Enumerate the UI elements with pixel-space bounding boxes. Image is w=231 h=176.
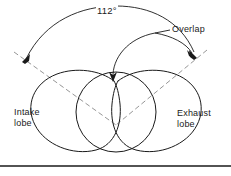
- exhaust-lobe-label: Exhaust lobe: [177, 108, 211, 130]
- overlap-leader-curve: [113, 33, 155, 78]
- overlap-leader-curve-right: [155, 33, 192, 53]
- angle-label: 112°: [96, 5, 118, 16]
- overlap-leader-line: [155, 30, 170, 33]
- intake-lobe-label: Intake lobe: [14, 107, 40, 129]
- cam-lobe-diagram: 112° Overlap Intake lobe Exhaust lobe: [0, 0, 231, 176]
- overlap-label: Overlap: [172, 24, 205, 35]
